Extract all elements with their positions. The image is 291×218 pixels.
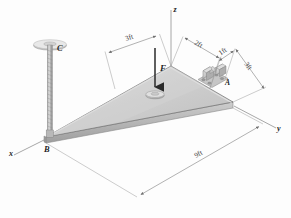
axis-x: x [8, 140, 44, 158]
axis-z-label: z [173, 5, 178, 14]
axis-z: z [171, 5, 178, 71]
force-f-label: F [159, 63, 166, 73]
dimension-right-3ft: 3ft [233, 50, 266, 103]
axis-y: y [234, 106, 281, 133]
cable-bc: C [34, 40, 67, 138]
dimension-right-3ft-text: 3ft [242, 60, 253, 71]
statics-diagram-svg: z [0, 0, 291, 218]
axis-y-label: y [276, 124, 281, 133]
axis-x-label: x [8, 149, 13, 158]
figure-canvas: z [0, 0, 291, 218]
dimension-left-3ft-text: 3ft [124, 33, 134, 43]
point-c-label: C [57, 44, 63, 53]
dimension-bottom-9ft-text: 9ft [193, 149, 204, 160]
point-b-label: B [43, 145, 50, 154]
